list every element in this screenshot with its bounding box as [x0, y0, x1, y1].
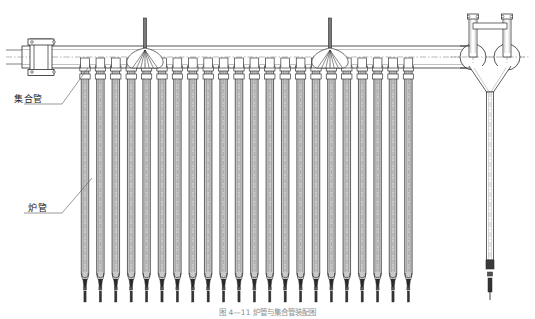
tube-collar-lower	[326, 74, 336, 79]
tube-collar-lower	[372, 74, 382, 79]
tube-collar-lower	[95, 74, 105, 79]
tube-drain-stem	[161, 291, 163, 302]
tube-collar-lower	[342, 74, 352, 79]
tube-nozzle	[173, 58, 182, 68]
tube-collar-lower	[388, 74, 398, 79]
tube-drain-stem	[176, 291, 178, 302]
tube-drain-band	[84, 287, 87, 290]
furnace-tube-21	[388, 58, 398, 302]
tube-nozzle	[389, 58, 398, 68]
tube-nozzle	[219, 58, 228, 68]
tube-drain-stem	[346, 291, 348, 302]
tube-drain-stem	[115, 291, 117, 302]
riser-stub-bolt-left-b	[476, 15, 478, 17]
tube-nozzle	[111, 58, 120, 68]
tube-drain-taper	[83, 279, 87, 287]
tube-drain-taper	[391, 279, 395, 287]
furnace-tube-11	[234, 58, 244, 302]
tube-drain-band	[222, 287, 225, 290]
flange-bolt-br	[53, 71, 56, 74]
tube-drain-taper	[206, 279, 210, 287]
furnace-tube-2	[95, 58, 105, 302]
tube-drain-band	[345, 287, 348, 290]
furnace-tube-7	[172, 58, 182, 302]
tube-drain-stem	[99, 291, 101, 302]
tube-nozzle	[81, 58, 90, 68]
furnace-tube-5	[141, 58, 151, 302]
label-furnace-tube: 炉管	[28, 201, 47, 214]
tube-drain-band	[191, 287, 194, 290]
tube-drain-band	[407, 287, 410, 290]
tube-drain-stem	[330, 291, 332, 302]
tube-collar-lower	[218, 74, 228, 79]
tube-drain-stem	[284, 291, 286, 302]
tube-collar-lower	[265, 74, 275, 79]
tube-collar-lower	[234, 74, 244, 79]
riser-tie-plate	[473, 23, 507, 29]
furnace-tube-15	[295, 58, 305, 302]
furnace-tube-19	[357, 58, 367, 302]
tube-drain-band	[392, 287, 395, 290]
tube-nozzle	[265, 58, 274, 68]
tube-nozzle	[373, 58, 382, 68]
tube-drain-taper	[160, 279, 164, 287]
tube-drain-taper	[345, 279, 349, 287]
tube-drain-band	[114, 287, 117, 290]
furnace-tube-4	[126, 58, 136, 302]
tube-nozzle	[250, 58, 259, 68]
tube-collar-lower	[357, 74, 367, 79]
riser-stub-bolt-right-a	[502, 15, 504, 17]
tube-drain-band	[130, 287, 133, 290]
tube-drain-taper	[129, 279, 133, 287]
tube-drain-band	[330, 287, 333, 290]
tube-drain-band	[361, 287, 364, 290]
tube-collar-lower	[141, 74, 151, 79]
tube-nozzle	[96, 58, 105, 68]
tube-drain-taper	[98, 279, 102, 287]
tube-drain-stem	[269, 291, 271, 302]
label-header-pipe: 集合管	[14, 92, 43, 105]
tube-drain-taper	[329, 279, 333, 287]
tube-collar-lower	[126, 74, 136, 79]
furnace-tube-12	[249, 58, 259, 302]
tube-drain-band	[99, 287, 102, 290]
drawing-vector-art	[0, 0, 535, 319]
tube-nozzle	[204, 58, 213, 68]
riser-lower-stem	[488, 278, 492, 292]
tube-drain-taper	[114, 279, 118, 287]
furnace-tube-16	[311, 58, 321, 302]
tube-drain-band	[315, 287, 318, 290]
tube-collar-lower	[188, 74, 198, 79]
tube-drain-band	[238, 287, 241, 290]
tube-drain-taper	[299, 279, 303, 287]
furnace-tube-22	[403, 58, 413, 302]
furnace-tube-9	[203, 58, 213, 302]
tube-drain-taper	[268, 279, 272, 287]
tube-drain-band	[268, 287, 271, 290]
tube-collar-lower	[280, 74, 290, 79]
tube-drain-stem	[392, 291, 394, 302]
furnace-tube-20	[372, 58, 382, 302]
furnace-tube-10	[218, 58, 228, 302]
tube-drain-stem	[315, 291, 317, 302]
tube-drain-stem	[223, 291, 225, 302]
tube-drain-taper	[145, 279, 149, 287]
furnace-tube-1	[80, 58, 90, 302]
riser-stub-bolt-right-b	[510, 15, 512, 17]
furnace-tube-14	[280, 58, 290, 302]
tube-nozzle	[235, 58, 244, 68]
tube-drain-taper	[406, 279, 410, 287]
tube-drain-stem	[253, 291, 255, 302]
tube-drain-stem	[84, 291, 86, 302]
tube-drain-band	[176, 287, 179, 290]
figure-caption: 图 4—11 炉管与集合管装配图	[0, 306, 535, 317]
tube-drain-taper	[191, 279, 195, 287]
tube-nozzle	[358, 58, 367, 68]
tube-collar-lower	[403, 74, 413, 79]
tube-drain-taper	[314, 279, 318, 287]
tube-drain-band	[253, 287, 256, 290]
tube-drain-band	[376, 287, 379, 290]
riser-coupling	[486, 260, 494, 269]
tube-drain-stem	[192, 291, 194, 302]
tube-drain-taper	[283, 279, 287, 287]
